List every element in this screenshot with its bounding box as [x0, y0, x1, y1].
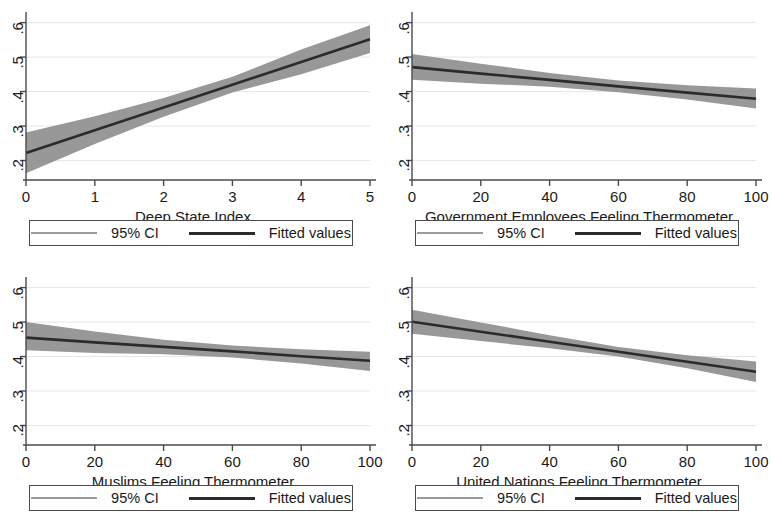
legend-3: 95% CI Fitted values [415, 485, 739, 511]
x-tick-label: 40 [524, 188, 576, 205]
legend-label-ci: 95% CI [497, 225, 545, 241]
plot-area-3: .2.3.4.5.6020406080100United Nations Fee… [386, 265, 772, 480]
y-tick-label: .6 [9, 22, 26, 39]
x-tick-label: 40 [524, 453, 576, 470]
figure-panel-grid: .2.3.4.5.6012345Deep State Index 95% CI … [0, 0, 772, 531]
panel-0: .2.3.4.5.6012345Deep State Index 95% CI … [0, 0, 386, 265]
x-tick-label: 2 [138, 188, 190, 205]
x-tick-label: 80 [661, 188, 713, 205]
x-tick-label: 1 [69, 188, 121, 205]
panel-2: .2.3.4.5.6020406080100Muslims Feeling Th… [0, 265, 386, 531]
fitted-line [412, 322, 756, 372]
legend-item-fitted-2: Fitted values [189, 490, 351, 506]
ci-band [412, 54, 756, 108]
x-tick-label: 0 [386, 453, 438, 470]
y-tick-label: .6 [395, 22, 412, 39]
y-tick-label: .4 [395, 356, 412, 373]
y-tick-label: .4 [9, 91, 26, 108]
y-tick-label: .2 [395, 425, 412, 442]
legend-item-ci-3: 95% CI [417, 490, 545, 506]
x-tick-label: 100 [730, 453, 772, 470]
fitted-line-swatch-icon [189, 497, 255, 500]
y-tick-label: .6 [395, 287, 412, 304]
y-tick-label: .5 [9, 57, 26, 74]
plot-canvas-0 [0, 0, 386, 215]
x-tick-label: 60 [592, 453, 644, 470]
fitted-line-swatch-icon [575, 497, 641, 500]
legend-label-ci: 95% CI [111, 490, 159, 506]
legend-label-ci: 95% CI [111, 225, 159, 241]
legend-item-ci-2: 95% CI [31, 490, 159, 506]
legend-label-fitted: Fitted values [655, 225, 737, 241]
legend-0: 95% CI Fitted values [29, 220, 353, 246]
legend-2: 95% CI Fitted values [29, 485, 353, 511]
x-tick-label: 100 [730, 188, 772, 205]
y-tick-label: .2 [395, 160, 412, 177]
plot-area-2: .2.3.4.5.6020406080100Muslims Feeling Th… [0, 265, 386, 480]
x-tick-label: 0 [0, 188, 52, 205]
plot-canvas-1 [386, 0, 772, 215]
y-tick-label: .3 [395, 391, 412, 408]
legend-label-fitted: Fitted values [269, 225, 351, 241]
ci-line-swatch-icon [417, 232, 483, 234]
x-tick-label: 0 [0, 453, 52, 470]
legend-item-fitted-1: Fitted values [575, 225, 737, 241]
x-tick-label: 80 [275, 453, 327, 470]
x-tick-label: 20 [69, 453, 121, 470]
y-tick-label: .2 [9, 160, 26, 177]
plot-canvas-2 [0, 265, 386, 480]
plot-area-0: .2.3.4.5.6012345Deep State Index [0, 0, 386, 215]
y-tick-label: .5 [395, 322, 412, 339]
legend-item-ci-1: 95% CI [417, 225, 545, 241]
fitted-line-swatch-icon [575, 232, 641, 235]
ci-line-swatch-icon [31, 232, 97, 234]
legend-1: 95% CI Fitted values [415, 220, 739, 246]
y-tick-label: .3 [9, 126, 26, 143]
ci-band [26, 25, 370, 173]
panel-3: .2.3.4.5.6020406080100United Nations Fee… [386, 265, 772, 531]
fitted-line [26, 39, 370, 153]
x-tick-label: 3 [206, 188, 258, 205]
x-tick-label: 4 [275, 188, 327, 205]
legend-label-ci: 95% CI [497, 490, 545, 506]
y-tick-label: .5 [395, 57, 412, 74]
x-tick-label: 60 [206, 453, 258, 470]
plot-area-1: .2.3.4.5.6020406080100Government Employe… [386, 0, 772, 215]
legend-item-ci-0: 95% CI [31, 225, 159, 241]
fitted-line [412, 67, 756, 99]
legend-item-fitted-0: Fitted values [189, 225, 351, 241]
x-tick-label: 40 [138, 453, 190, 470]
y-tick-label: .4 [9, 356, 26, 373]
y-tick-label: .6 [9, 287, 26, 304]
legend-label-fitted: Fitted values [269, 490, 351, 506]
y-tick-label: .2 [9, 425, 26, 442]
y-tick-label: .5 [9, 322, 26, 339]
x-tick-label: 20 [455, 188, 507, 205]
ci-band [26, 322, 370, 371]
plot-canvas-3 [386, 265, 772, 480]
y-tick-label: .3 [395, 126, 412, 143]
x-tick-label: 60 [592, 188, 644, 205]
ci-line-swatch-icon [31, 497, 97, 499]
legend-item-fitted-3: Fitted values [575, 490, 737, 506]
y-tick-label: .4 [395, 91, 412, 108]
x-tick-label: 20 [455, 453, 507, 470]
fitted-line-swatch-icon [189, 232, 255, 235]
y-tick-label: .3 [9, 391, 26, 408]
ci-line-swatch-icon [417, 497, 483, 499]
legend-label-fitted: Fitted values [655, 490, 737, 506]
x-tick-label: 0 [386, 188, 438, 205]
x-tick-label: 80 [661, 453, 713, 470]
panel-1: .2.3.4.5.6020406080100Government Employe… [386, 0, 772, 265]
